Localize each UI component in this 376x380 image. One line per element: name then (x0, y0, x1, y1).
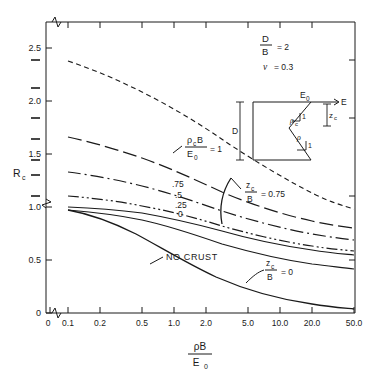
axis-break-marks (42, 17, 61, 318)
zc-0-num: z (266, 258, 270, 268)
x-tick-label: 0.2 (94, 318, 106, 328)
x-major-ticks (50, 307, 354, 313)
zc-075-equals: = 0.75 (261, 189, 285, 199)
poisson-equals: = 0.3 (274, 62, 293, 72)
inset-diagram (236, 99, 339, 160)
zc-0-num-sub: c (271, 263, 275, 270)
curve-label-05: .5 (175, 190, 182, 200)
y-tick-label: 0 (36, 308, 41, 318)
inset-rho-c-label: ρ (289, 116, 294, 125)
zc-075-annotation: z c B = 0.75 (245, 180, 285, 204)
curve-rho-025 (68, 196, 354, 251)
x-tick-labels: 0 0.1 0.2 0.5 1.0 2.0 5.0 10.0 20.0 50.0 (46, 318, 363, 328)
x-tick-label: 0 (46, 318, 51, 328)
x-tick-label: 2.0 (200, 318, 212, 328)
x-tick-label: 0.5 (136, 318, 148, 328)
rho-family-equals: = 1 (210, 144, 222, 154)
curve-rho-1 (68, 61, 354, 209)
inset-labels: E 0 E D z c ρ c ρ 1 1 (232, 90, 347, 149)
y-axis-title-main: R (13, 167, 21, 179)
rho-family-num-tail: B (197, 135, 203, 145)
x-tick-label: 5.0 (242, 318, 254, 328)
zc-075-leader (231, 178, 241, 189)
inset-rho-label: ρ (296, 133, 301, 142)
y-major-ticks (46, 48, 52, 313)
zc-0-leader (246, 270, 264, 283)
x-axis-title-denominator: E (193, 357, 200, 368)
x-axis-title-numerator: ρB (194, 341, 207, 352)
x-axis-title: ρB E 0 (188, 341, 212, 370)
y-minor-ticks (31, 60, 40, 196)
curve-rho-05 (68, 172, 354, 240)
y-tick-label: 2.0 (28, 96, 41, 106)
y-axis-title-sub: c (22, 174, 26, 181)
zc-075-den: B (247, 194, 253, 204)
rho-family-annotation: ρ c B E 0 = 1 (185, 135, 222, 161)
y-axis-title: R c (13, 167, 26, 181)
param-B: B (262, 46, 268, 57)
x-axis-title-denominator-sub: 0 (204, 363, 208, 370)
inset-block-outline (253, 102, 311, 160)
rho-family-leader (173, 146, 182, 153)
inset-zc-sub: c (334, 115, 337, 121)
inset-modulus-profile (289, 102, 311, 160)
no-crust-label: NO CRUST (166, 252, 218, 262)
zc-075-num: z (246, 180, 250, 190)
curve-label-0: 0 (178, 209, 183, 219)
params-block: D B = 2 ν = 0.3 (260, 33, 293, 72)
param-ratio-equals: = 2 (277, 42, 289, 52)
chart-svg: 0 0.5 1.0 1.5 2.0 2.5 R c (0, 0, 376, 380)
x-tick-label: 20.0 (304, 318, 321, 328)
poisson-symbol: ν (263, 62, 268, 72)
right-axis-ticks (349, 60, 355, 260)
x-tick-label: 0.1 (62, 318, 74, 328)
inset-one-bottom: 1 (308, 142, 312, 149)
zc-075-num-sub: c (251, 185, 255, 192)
zc-0-den: B (267, 272, 273, 282)
zc-0-annotation: z c B = 0 (265, 258, 293, 282)
y-tick-labels: 0 0.5 1.0 1.5 2.0 2.5 (28, 43, 41, 318)
x-tick-label: 50.0 (346, 318, 363, 328)
rho-family-den: E (187, 149, 193, 159)
figure-root: 0 0.5 1.0 1.5 2.0 2.5 R c (0, 0, 376, 380)
rho-family-den-sub: 0 (194, 154, 198, 161)
y-tick-label: 0.5 (28, 255, 41, 265)
inset-one-top: 1 (302, 113, 306, 120)
inset-D-label: D (232, 126, 238, 136)
rho-family-num: ρ (187, 135, 192, 145)
inset-zc-label: z (329, 111, 333, 120)
y-tick-label: 1.0 (28, 202, 41, 212)
x-tick-label: 1.0 (168, 318, 180, 328)
no-crust-leader (150, 257, 163, 264)
zc-0-equals: = 0 (281, 267, 293, 277)
inset-rho-c-sub: c (295, 121, 298, 127)
curve-label-075: .75 (172, 179, 184, 189)
inset-E-label: E (341, 97, 347, 107)
x-top-ticks (68, 22, 312, 28)
param-D: D (262, 33, 269, 44)
y-tick-label: 1.5 (28, 149, 41, 159)
x-tick-label: 10.0 (272, 318, 289, 328)
y-tick-label: 2.5 (28, 43, 41, 53)
zc-075-bracket-arc (221, 178, 231, 224)
inset-E0-sub: 0 (306, 95, 310, 102)
curves-group (68, 61, 354, 309)
